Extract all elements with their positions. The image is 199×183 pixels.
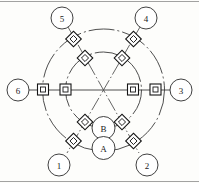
connector-diamond-icon[interactable] (66, 31, 82, 47)
node-4[interactable]: 4 (135, 7, 157, 29)
node-a-label: A (100, 144, 107, 154)
connector-diamond-icon[interactable] (77, 114, 93, 130)
connector-square-icon[interactable] (128, 84, 139, 95)
connector-diamond-icon[interactable] (114, 114, 130, 130)
node-3-label: 3 (179, 86, 184, 96)
node-5-label: 5 (60, 14, 65, 24)
node-6-label: 6 (16, 86, 21, 96)
ring-network-diagram: B A 1 2 3 4 5 6 (0, 0, 199, 183)
node-1[interactable]: 1 (48, 154, 70, 176)
connector-square-icon[interactable] (60, 84, 71, 95)
node-b-label: B (100, 124, 106, 134)
connector-diamond-icon[interactable] (126, 31, 142, 47)
connector-diamond-icon[interactable] (126, 133, 142, 149)
connector-diamond-icon[interactable] (77, 50, 93, 66)
node-2-label: 2 (145, 161, 150, 171)
connector-diamond-icon[interactable] (114, 50, 130, 66)
connector-diamond-icon[interactable] (66, 133, 82, 149)
node-1-label: 1 (57, 161, 62, 171)
node-4-label: 4 (144, 14, 149, 24)
diagram-canvas: B A 1 2 3 4 5 6 (0, 0, 199, 183)
node-a[interactable]: A (92, 137, 115, 160)
connector-square-icon[interactable] (38, 84, 49, 95)
node-3[interactable]: 3 (170, 79, 192, 101)
connector-square-icon[interactable] (150, 84, 161, 95)
node-2[interactable]: 2 (136, 154, 158, 176)
node-5[interactable]: 5 (51, 7, 73, 29)
node-6[interactable]: 6 (7, 79, 29, 101)
